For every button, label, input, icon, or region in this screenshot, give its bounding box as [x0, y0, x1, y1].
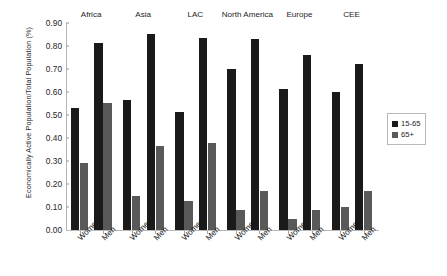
y-axis-tick-mark	[66, 161, 69, 162]
bar-65plus-africa-women	[80, 163, 88, 230]
legend-item: 65+	[392, 129, 420, 140]
bar-65plus-africa-men	[103, 103, 111, 230]
chart-legend: 15-6565+	[387, 113, 426, 145]
y-axis-tick-mark	[66, 92, 69, 93]
legend-label: 15-65	[401, 119, 420, 128]
region-group-label: CEE	[343, 10, 360, 19]
legend-swatch-icon	[392, 132, 398, 138]
bar-chart: Economically Active Population/Total Pop…	[0, 0, 447, 276]
bar-15-65-cee-women	[332, 92, 340, 230]
y-axis-tick-mark	[66, 69, 69, 70]
y-axis-tick-mark	[66, 138, 69, 139]
bar-15-65-north-america-men	[251, 39, 259, 230]
legend-label: 65+	[401, 130, 414, 139]
y-axis-tick-mark	[66, 115, 69, 116]
bar-15-65-asia-women	[123, 100, 131, 230]
bar-15-65-europe-men	[303, 55, 311, 230]
y-axis-tick-label: 0.70	[46, 64, 66, 74]
bar-65plus-asia-men	[156, 146, 164, 230]
y-axis-tick-mark	[66, 207, 69, 208]
legend-item: 15-65	[392, 118, 420, 129]
region-group-label: Europe	[286, 10, 312, 19]
y-axis-tick-mark	[66, 23, 69, 24]
y-axis-tick-label: 0.10	[46, 202, 66, 212]
bar-15-65-lac-men	[199, 38, 207, 230]
bar-15-65-cee-men	[355, 64, 363, 230]
bar-15-65-europe-women	[279, 89, 287, 230]
bar-15-65-africa-women	[71, 108, 79, 230]
bar-65plus-lac-men	[208, 143, 216, 230]
plot-area: 0.900.800.700.600.500.400.300.200.100.00…	[66, 23, 378, 230]
y-axis-title: Economically Active Population/Total Pop…	[24, 8, 33, 218]
bar-15-65-north-america-women	[227, 69, 235, 230]
y-axis-tick-label: 0.50	[46, 110, 66, 120]
bar-15-65-africa-men	[94, 43, 102, 230]
region-group-label: North America	[222, 10, 273, 19]
y-axis-tick-label: 0.40	[46, 133, 66, 143]
y-axis-tick-label: 0.20	[46, 179, 66, 189]
y-axis-tick-label: 0.90	[46, 18, 66, 28]
y-axis-tick-label: 0.80	[46, 41, 66, 51]
region-group-label: LAC	[187, 10, 203, 19]
y-axis-tick-mark	[66, 184, 69, 185]
y-axis-tick-label: 0.30	[46, 156, 66, 166]
y-axis-tick-mark	[66, 46, 69, 47]
bar-15-65-asia-men	[147, 34, 155, 230]
y-axis-tick-label: 0.60	[46, 87, 66, 97]
region-group-label: Asia	[135, 10, 151, 19]
y-axis-tick-label: 0.00	[46, 225, 66, 235]
region-group-label: Africa	[81, 10, 102, 19]
legend-swatch-icon	[392, 121, 398, 127]
bar-15-65-lac-women	[175, 112, 183, 230]
